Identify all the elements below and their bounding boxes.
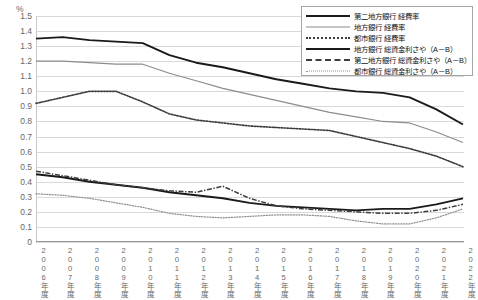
x-axis-tick: 2015年度 <box>265 246 287 298</box>
legend-item-label: 地方銀行 経費率 <box>354 24 405 31</box>
legend-item[interactable]: 第二地方銀行 総資金利さや（A－B） <box>306 55 469 66</box>
y-axis-tick: 0.4 <box>6 177 32 186</box>
legend-item-label: 第二地方銀行 総資金利さや（A－B） <box>354 57 471 64</box>
y-axis-tick: 1.4 <box>6 27 32 36</box>
y-axis-tick: 0 <box>6 238 32 247</box>
y-axis-tick: 1.0 <box>6 87 32 96</box>
x-axis-tick: 2012年度 <box>185 246 207 298</box>
y-axis-tick: 1.3 <box>6 42 32 51</box>
series-line <box>36 91 463 166</box>
x-axis-tick: 2019年度 <box>372 246 394 298</box>
legend-item-label: 都市銀行 総資金利さや（A－B） <box>354 68 457 75</box>
x-axis-tick: 2010年度 <box>132 246 154 298</box>
x-axis-tick: 2016年度 <box>292 246 314 298</box>
x-axis-tick: 2021年度 <box>425 246 447 298</box>
legend-item-label: 地方銀行 総資金利さや（A－B） <box>354 46 457 53</box>
y-axis-tick: 0.7 <box>6 132 32 141</box>
y-axis-tick: 0.5 <box>6 162 32 171</box>
y-axis-tick: 1.2 <box>6 57 32 66</box>
y-axis-tick: 0.9 <box>6 102 32 111</box>
y-axis-tick: 1.1 <box>6 72 32 81</box>
x-axis-tick: 2011年度 <box>158 246 180 298</box>
x-axis-tick: 2017年度 <box>319 246 341 298</box>
x-axis-tick: 2008年度 <box>78 246 100 298</box>
legend-swatch-icon <box>306 45 350 54</box>
x-axis-tick: 2006年度 <box>25 246 47 298</box>
legend-swatch-icon <box>306 56 350 65</box>
series-line <box>36 174 463 210</box>
legend-swatch-icon <box>306 34 350 43</box>
y-axis-tick: 0.1 <box>6 223 32 232</box>
y-axis-tick: 0.8 <box>6 117 32 126</box>
x-axis-tick: 2020年度 <box>399 246 421 298</box>
legend-item[interactable]: 地方銀行 総資金利さや（A－B） <box>306 44 469 55</box>
y-axis-tick: 1.5 <box>6 12 32 21</box>
legend-item[interactable]: 第二地方銀行 経費率 <box>306 11 469 22</box>
legend-item[interactable]: 地方銀行 経費率 <box>306 22 469 33</box>
legend-item[interactable]: 都市銀行 総資金利さや（A－B） <box>306 66 469 77</box>
x-axis-tick: 2018年度 <box>345 246 367 298</box>
chart-legend: 第二地方銀行 経費率地方銀行 経費率都市銀行 経費率地方銀行 総資金利さや（A－… <box>301 6 473 76</box>
legend-item-label: 都市銀行 経費率 <box>354 35 405 42</box>
legend-swatch-icon <box>306 23 350 32</box>
y-axis-tick: 0.6 <box>6 147 32 156</box>
x-axis-tick: 2022年度 <box>452 246 474 298</box>
legend-swatch-icon <box>306 12 350 21</box>
x-axis-tick: 2009年度 <box>105 246 127 298</box>
x-axis-tick: 2013年度 <box>212 246 234 298</box>
legend-item[interactable]: 都市銀行 経費率 <box>306 33 469 44</box>
x-axis-tick: 2014年度 <box>239 246 261 298</box>
legend-item-label: 第二地方銀行 経費率 <box>354 13 419 20</box>
chart-container: % 1.51.41.31.21.11.00.90.80.70.60.50.40.… <box>0 0 478 300</box>
x-axis-tick: 2007年度 <box>52 246 74 298</box>
series-line <box>36 171 463 213</box>
y-axis-tick: 0.3 <box>6 193 32 202</box>
y-axis-tick: 0.2 <box>6 208 32 217</box>
gridline <box>36 242 464 243</box>
legend-swatch-icon <box>306 67 350 76</box>
